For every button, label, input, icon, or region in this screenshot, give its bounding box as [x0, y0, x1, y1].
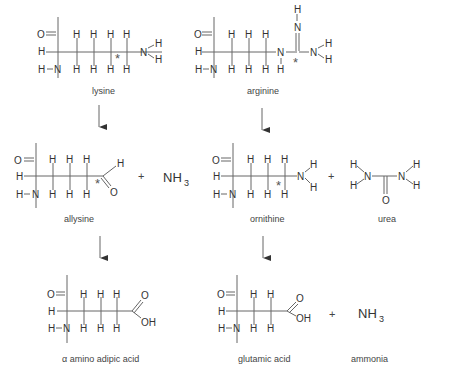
atom-label: H [213, 171, 220, 182]
atom-label: H [267, 289, 274, 300]
atom-label: H [117, 158, 124, 169]
plus-sign: + [138, 170, 144, 182]
atom-label: H [250, 323, 257, 334]
atom-label: 3 [184, 178, 189, 188]
atom-label: H [350, 159, 357, 170]
atom-label: H [413, 159, 420, 170]
bond-line [287, 302, 296, 311]
atom-label: H [97, 289, 104, 300]
allysine-label: allysine [64, 214, 94, 224]
alpha-amino-adipic-acid-label: α amino adipic acid [62, 354, 139, 364]
atom-label: H [213, 189, 220, 200]
atom-label: H [107, 29, 114, 40]
atom-label: H [38, 46, 45, 57]
plus-sign: + [329, 308, 335, 320]
atom-label: H [262, 64, 269, 75]
urea-structure: H H N O N H H urea [350, 159, 420, 224]
atom-label: H [123, 29, 130, 40]
atom-label: OH [296, 313, 311, 324]
atom-label: H [218, 323, 225, 334]
reaction-diagram: O H H N HH HH HH HH * N H H lysine O H H… [0, 0, 455, 380]
ammonia-structure: NH 3 ammonia [351, 306, 388, 364]
atom-label: H [325, 54, 332, 65]
atom-label: H [277, 64, 284, 75]
atom-label: O [217, 289, 225, 300]
atom-label: H [310, 182, 317, 193]
bond-line [289, 304, 298, 313]
glutamic-acid-label: glutamic acid [238, 354, 291, 364]
bond-line [357, 166, 364, 172]
asterisk-marker: * [95, 176, 100, 191]
atom-label: H [16, 189, 23, 200]
atom-label: N [297, 171, 304, 182]
plus-sign: + [328, 170, 334, 182]
atom-label: H [195, 64, 202, 75]
atom-label: H [83, 154, 90, 165]
atom-label: H [90, 29, 97, 40]
asterisk-marker: * [293, 55, 298, 70]
lysine-label: lysine [92, 86, 115, 96]
atom-label: N [398, 171, 405, 182]
atom-label: N [310, 47, 317, 58]
alpha-amino-adipic-acid-structure: O H H N HH HH HH O OH α amino adipic aci… [47, 275, 156, 364]
arginine-label: arginine [247, 86, 279, 96]
glutamic-acid-structure: O H H N HH HH O OH glutamic acid [217, 275, 311, 364]
atom-label: H [49, 189, 56, 200]
atom-label: H [262, 29, 269, 40]
atom-label: N [364, 171, 371, 182]
atom-label: H [155, 38, 162, 49]
atom-label: H [218, 306, 225, 317]
atom-label: O [47, 289, 55, 300]
atom-label: H [155, 54, 162, 65]
atom-label: H [281, 154, 288, 165]
urea-label: urea [378, 214, 396, 224]
bond-line [287, 311, 296, 316]
atom-label: N [229, 189, 236, 200]
atom-label: H [228, 29, 235, 40]
bond-line [406, 166, 413, 172]
atom-label: H [245, 29, 252, 40]
atom-label: H [123, 64, 130, 75]
atom-label: H [66, 189, 73, 200]
atom-label: H [247, 189, 254, 200]
bond-line [406, 179, 413, 184]
bond-line [148, 54, 154, 58]
atom-label: H [325, 38, 332, 49]
atom-label: N [32, 189, 39, 200]
bond-line [103, 166, 116, 176]
bond-line [132, 311, 141, 318]
atom-label: H [66, 154, 73, 165]
atom-label: H [310, 159, 317, 170]
atom-label: H [113, 289, 120, 300]
ornithine-structure: O H H N HH HH HH * N H H ornithine [212, 143, 317, 224]
atom-label: O [382, 195, 390, 206]
atom-label: N [54, 64, 61, 75]
atom-label: H [250, 289, 257, 300]
asterisk-marker: * [276, 178, 281, 193]
atom-label: N [294, 22, 301, 33]
asterisk-marker: * [115, 51, 120, 66]
atom-label: H [49, 154, 56, 165]
bond-line [103, 176, 111, 186]
atom-label: N [233, 323, 240, 334]
lysine-structure: O H H N HH HH HH HH * N H H lysine [37, 17, 162, 96]
atom-label: H [195, 46, 202, 57]
atom-label: H [97, 323, 104, 334]
atom-label: H [267, 323, 274, 334]
bond-line [318, 54, 324, 58]
atom-label: H [264, 189, 271, 200]
atom-label: O [296, 293, 304, 304]
atom-label: H [245, 64, 252, 75]
bond-line [318, 45, 324, 48]
atom-label: H [73, 29, 80, 40]
atom-label: O [141, 290, 149, 301]
bond-line [148, 45, 154, 48]
atom-label: H [80, 289, 87, 300]
arginine-structure: O H H N HH HH HH N H N H * N H H arginin… [194, 4, 332, 96]
atom-label: H [83, 189, 90, 200]
atom-label: N [63, 323, 70, 334]
atom-label: H [264, 154, 271, 165]
atom-label: H [48, 323, 55, 334]
atom-label: H [38, 64, 45, 75]
atom-label: H [228, 64, 235, 75]
